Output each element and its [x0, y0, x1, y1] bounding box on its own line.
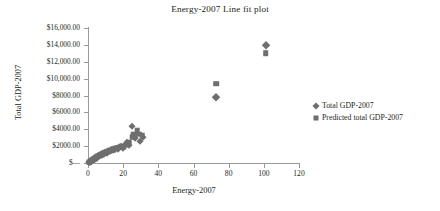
x-axis-tick-label: 0 [68, 170, 108, 178]
x-axis-tick [88, 164, 89, 168]
data-point-square [111, 148, 116, 153]
data-point-square [100, 152, 105, 157]
y-axis-tick-label: $2000.00 [10, 142, 80, 149]
data-point-square [92, 157, 97, 162]
data-point-diamond [128, 123, 134, 129]
data-point-diamond [89, 156, 95, 162]
data-point-square [106, 148, 111, 153]
data-point-square [119, 144, 124, 149]
data-point-square [101, 151, 106, 156]
data-point-square [95, 154, 100, 159]
data-point-diamond [126, 141, 132, 147]
chart-legend: Total GDP-2007Predicted total GDP-2007 [311, 100, 439, 124]
data-point-square [92, 156, 97, 161]
data-point-diamond [114, 146, 120, 152]
data-point-diamond [107, 148, 113, 154]
data-point-diamond [104, 148, 110, 154]
data-point-diamond [92, 155, 98, 161]
data-point-diamond [130, 132, 136, 138]
data-point-square [98, 153, 103, 158]
data-point-square [96, 154, 101, 159]
data-point-square [125, 141, 130, 146]
x-axis-tick-label: 120 [279, 170, 319, 178]
data-point-diamond [108, 147, 114, 153]
data-point-diamond [92, 155, 98, 161]
data-point-diamond [111, 145, 117, 151]
data-point-square [89, 159, 94, 164]
legend-diamond-icon [311, 100, 321, 112]
data-point-square [127, 140, 132, 145]
data-point-diamond [94, 154, 100, 160]
data-point-square [263, 51, 269, 57]
data-point-diamond [99, 151, 105, 157]
x-axis-tick-label: 80 [209, 170, 249, 178]
data-point-square [91, 157, 96, 162]
data-point-square [112, 146, 117, 151]
data-point-diamond [113, 145, 119, 151]
data-point-square [214, 81, 220, 87]
data-point-diamond [88, 157, 94, 163]
data-point-square [99, 152, 104, 157]
data-point-diamond [88, 157, 94, 163]
data-point-square [89, 158, 94, 163]
data-point-square [138, 132, 143, 137]
data-point-diamond [124, 139, 130, 145]
data-point-diamond [90, 156, 96, 162]
x-axis-tick [158, 164, 159, 168]
data-point-diamond [262, 41, 270, 49]
y-axis-title: Total GDP-2007 [14, 43, 23, 143]
data-point-diamond [92, 155, 98, 161]
data-point-diamond [132, 135, 138, 141]
data-point-square [140, 133, 145, 138]
data-point-square [97, 153, 102, 158]
data-point-diamond [91, 156, 97, 162]
data-point-square [92, 156, 97, 161]
data-point-diamond [94, 153, 100, 159]
data-point-diamond [109, 146, 115, 152]
data-point-square [89, 158, 94, 163]
data-point-diamond [212, 93, 220, 101]
data-point-square [114, 145, 119, 150]
data-point-square [131, 132, 136, 137]
data-point-square [98, 152, 103, 157]
data-point-diamond [139, 134, 145, 140]
data-point-square [90, 158, 95, 163]
data-point-square [100, 151, 105, 156]
data-point-diamond [102, 149, 108, 155]
data-point-diamond [93, 154, 99, 160]
data-point-diamond [93, 154, 99, 160]
data-point-square [123, 143, 128, 148]
data-point-diamond [89, 157, 95, 163]
x-axis-tick-label: 100 [244, 170, 284, 178]
data-point-square [94, 155, 99, 160]
data-point-square [103, 150, 108, 155]
chart-title: Energy-2007 Line fit plot [0, 4, 440, 14]
data-point-diamond [97, 151, 103, 157]
data-point-square [93, 156, 98, 161]
data-point-diamond [89, 157, 95, 163]
data-point-square [115, 146, 120, 151]
data-point-square [109, 147, 114, 152]
x-axis-tick-label: 20 [103, 170, 143, 178]
data-point-diamond [95, 153, 101, 159]
legend-item[interactable]: Predicted total GDP-2007 [311, 112, 439, 124]
legend-item[interactable]: Total GDP-2007 [311, 100, 439, 112]
x-axis-tick [229, 164, 230, 168]
data-point-square [96, 154, 101, 159]
data-point-diamond [90, 157, 96, 163]
data-point-diamond [98, 151, 104, 157]
data-point-diamond [96, 152, 102, 158]
data-point-diamond [122, 142, 128, 148]
y-axis-tick-label: $16,000.00 [10, 24, 80, 31]
y-axis-tick-label: $— [10, 159, 80, 166]
data-point-square [105, 149, 110, 154]
x-axis-tick [264, 164, 265, 168]
data-point-diamond [134, 130, 140, 136]
data-point-square [97, 153, 102, 158]
data-point-diamond [96, 152, 102, 158]
data-point-diamond [101, 151, 107, 157]
data-point-diamond [120, 144, 126, 150]
data-point-square [94, 155, 99, 160]
data-point-square [129, 136, 134, 141]
data-point-square [103, 149, 108, 154]
